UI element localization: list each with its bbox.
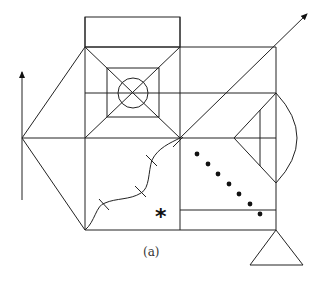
bottom-triangle [250,230,303,265]
figure-caption: (a) [143,245,160,259]
asterisk-icon: * [155,204,167,229]
diagram-canvas: * (a) [0,0,324,283]
diagonal-arrow-icon [180,14,307,138]
dot-sequence [195,152,263,217]
top-box [85,17,180,47]
wavy-line [85,137,183,230]
left-kite [22,47,276,230]
